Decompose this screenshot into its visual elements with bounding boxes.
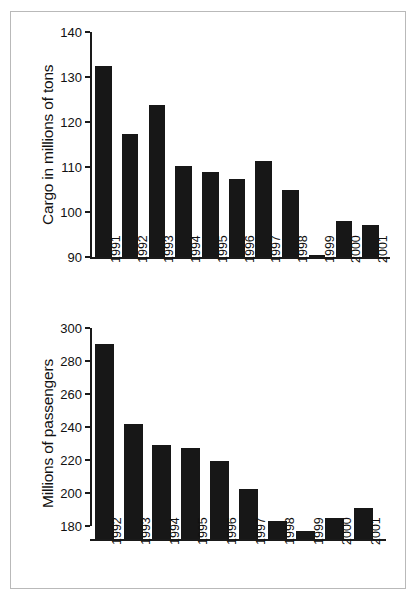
cargo-y-tick-label: 120 xyxy=(52,115,82,130)
x-tick-label-pass-1996: 1996 xyxy=(225,517,239,545)
cargo-plot-area: 9010011012013014019911992199319941995199… xyxy=(90,32,384,257)
x-tick-label-pass-1999: 1999 xyxy=(312,517,326,545)
pass-y-tick-label: 200 xyxy=(52,485,82,500)
cargo-y-tick xyxy=(85,256,90,258)
passengers-plot-area: 1802002202402602803001992199319941995199… xyxy=(90,328,378,539)
chart-panel-passengers: Millions of passengers 18020022024026028… xyxy=(11,301,407,589)
pass-y-tick xyxy=(85,393,90,395)
pass-y-tick-label: 240 xyxy=(52,419,82,434)
bar-pass-1992 xyxy=(95,344,114,539)
x-tick-label-cargo-1999: 1999 xyxy=(323,235,337,263)
cargo-y-tick xyxy=(85,76,90,78)
figure-container: Cargo in millions of tons 90100110120130… xyxy=(0,0,418,601)
x-tick-label-cargo-1997: 1997 xyxy=(269,235,283,263)
x-tick-label-cargo-1994: 1994 xyxy=(189,235,203,263)
pass-y-tick-label: 260 xyxy=(52,386,82,401)
x-tick-label-pass-2001: 2001 xyxy=(369,517,383,545)
x-tick-label-pass-1994: 1994 xyxy=(168,517,182,545)
pass-y-tick-label: 280 xyxy=(52,353,82,368)
pass-y-tick xyxy=(85,525,90,527)
figure-border-frame: Cargo in millions of tons 90100110120130… xyxy=(10,11,406,589)
pass-y-tick xyxy=(85,360,90,362)
x-tick-label-pass-1997: 1997 xyxy=(254,517,268,545)
x-tick-label-cargo-1995: 1995 xyxy=(216,235,230,263)
cargo-y-tick-label: 130 xyxy=(52,70,82,85)
pass-y-tick xyxy=(85,327,90,329)
cargo-y-axis-title: Cargo in millions of tons xyxy=(39,64,57,224)
x-tick-label-cargo-1996: 1996 xyxy=(243,235,257,263)
x-tick-label-cargo-1991: 1991 xyxy=(109,235,123,263)
cargo-y-axis-line xyxy=(90,32,92,257)
cargo-y-tick xyxy=(85,121,90,123)
x-tick-label-cargo-2001: 2001 xyxy=(376,235,390,263)
x-tick-label-pass-1993: 1993 xyxy=(139,517,153,545)
x-tick-label-pass-2000: 2000 xyxy=(340,517,354,545)
pass-y-tick-label: 300 xyxy=(52,321,82,336)
x-tick-label-cargo-1992: 1992 xyxy=(136,235,150,263)
bar-cargo-1991 xyxy=(95,66,112,257)
pass-y-axis-line xyxy=(90,328,92,526)
x-tick-label-pass-1992: 1992 xyxy=(110,517,124,545)
pass-y-tick-label: 220 xyxy=(52,452,82,467)
x-tick-label-cargo-1998: 1998 xyxy=(296,235,310,263)
x-tick-label-cargo-1993: 1993 xyxy=(162,235,176,263)
cargo-y-tick xyxy=(85,31,90,33)
pass-y-tick xyxy=(85,459,90,461)
cargo-y-tick-label: 140 xyxy=(52,25,82,40)
cargo-y-tick xyxy=(85,211,90,213)
pass-y-tick-label: 180 xyxy=(52,518,82,533)
cargo-y-tick-label: 100 xyxy=(52,205,82,220)
x-tick-label-cargo-2000: 2000 xyxy=(349,235,363,263)
cargo-y-tick-label: 110 xyxy=(52,160,82,175)
chart-panel-cargo: Cargo in millions of tons 90100110120130… xyxy=(11,12,407,301)
cargo-y-tick xyxy=(85,166,90,168)
pass-y-tick xyxy=(85,426,90,428)
x-tick-label-pass-1995: 1995 xyxy=(196,517,210,545)
cargo-x-axis-line xyxy=(90,257,390,259)
cargo-y-tick-label: 90 xyxy=(52,250,82,265)
x-tick-label-pass-1998: 1998 xyxy=(283,517,297,545)
pass-y-tick xyxy=(85,492,90,494)
